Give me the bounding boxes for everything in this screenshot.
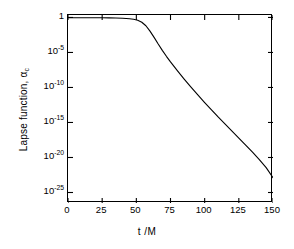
- y-tick-label: 1: [59, 12, 64, 22]
- y-tick-label: 10-5: [47, 47, 64, 57]
- x-tick-label: 125: [230, 205, 246, 215]
- y-tick-exponent: -25: [54, 185, 64, 192]
- y-tick-label: 10-10: [44, 82, 64, 92]
- data-curve: [68, 18, 273, 178]
- y-axis-title: Lapse function, αc: [18, 25, 29, 195]
- x-tick-label: 50: [130, 205, 141, 215]
- tick-marks: [68, 15, 273, 203]
- y-axis-title-text: Lapse function, α: [18, 71, 29, 151]
- x-tick-label: 100: [196, 205, 212, 215]
- y-tick-mantissa: 10: [47, 46, 58, 57]
- y-tick-mantissa: 10: [44, 186, 55, 197]
- plot-area: [67, 14, 272, 202]
- x-tick-label: 150: [264, 205, 280, 215]
- y-tick-exponent: -10: [54, 80, 64, 87]
- y-tick-label: 10-20: [44, 152, 64, 162]
- x-tick-label: 25: [96, 205, 107, 215]
- x-tick-label: 0: [64, 205, 69, 215]
- y-tick-mantissa: 10: [44, 81, 55, 92]
- y-tick-mantissa: 10: [44, 151, 55, 162]
- y-tick-label: 10-15: [44, 117, 64, 127]
- y-tick-exponent: -5: [58, 45, 64, 52]
- y-tick-exponent: -20: [54, 150, 64, 157]
- y-tick-label: 10-25: [44, 187, 64, 197]
- y-tick-mantissa: 10: [44, 116, 55, 127]
- y-tick-exponent: -15: [54, 115, 64, 122]
- plot-svg: [68, 15, 273, 203]
- x-axis-tick-labels: 0255075100125150: [0, 205, 294, 221]
- x-axis-title: t /M: [0, 226, 294, 237]
- x-tick-label: 75: [164, 205, 175, 215]
- y-axis-title-subscript: c: [23, 68, 30, 72]
- data-curves: [68, 18, 273, 178]
- y-tick-mantissa: 1: [59, 11, 64, 22]
- lapse-function-chart: 110-510-1010-1510-2010-25 02550751001251…: [0, 0, 294, 249]
